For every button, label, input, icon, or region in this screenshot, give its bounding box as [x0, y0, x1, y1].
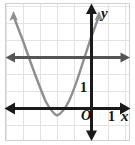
- origin-label: O: [81, 109, 91, 123]
- x-axis-unit-tick-label: 1: [108, 110, 115, 124]
- coordinate-graph-figure: y x O 1 1: [0, 0, 135, 145]
- y-axis-unit-tick-label: 1: [80, 81, 87, 95]
- y-axis-label: y: [101, 6, 108, 21]
- x-axis-label: x: [121, 109, 129, 124]
